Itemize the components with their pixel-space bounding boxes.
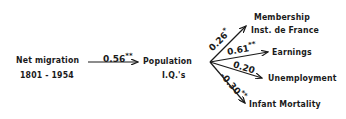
node-membership: Membership bbox=[254, 11, 310, 22]
node-net-migration: Net migration bbox=[16, 54, 79, 65]
coef-main: 0.56** bbox=[103, 51, 133, 64]
node-membership-inst: Inst. de France bbox=[251, 24, 319, 35]
coef-value: 0.56 bbox=[103, 54, 125, 64]
node-earnings: Earnings bbox=[272, 46, 312, 57]
sig-stars: ** bbox=[248, 40, 257, 49]
node-unemployment: Unemployment bbox=[268, 72, 337, 83]
node-population-iq: I.Q.'s bbox=[162, 69, 185, 80]
node-population: Population bbox=[143, 55, 192, 66]
sig-stars: ** bbox=[125, 52, 132, 60]
node-infant-mortality: Infant Mortality bbox=[249, 98, 321, 109]
node-net-migration-years: 1801 - 1954 bbox=[20, 69, 74, 80]
